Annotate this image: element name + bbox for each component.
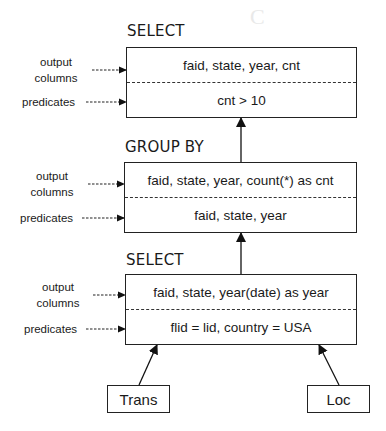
output-columns-value: faid, state, year(date) as year (126, 275, 356, 310)
operator-title: GROUP BY (125, 138, 204, 156)
operator-title: SELECT (127, 22, 185, 40)
predicates-label: predicates (24, 321, 77, 337)
output-columns-value: faid, state, year, cnt (127, 48, 356, 83)
operator-box-select-top: faid, state, year, cnt cnt > 10 (126, 47, 357, 118)
output-columns-label: output columns (24, 279, 92, 311)
output-label-line2: columns (22, 70, 90, 86)
relation-box-loc: Loc (307, 385, 370, 413)
output-columns-value: faid, state, year, count(*) as cnt (125, 163, 356, 198)
predicates-value: flid = lid, country = USA (126, 310, 356, 344)
output-columns-label: output columns (22, 54, 90, 86)
output-label-line1: output (22, 54, 90, 70)
output-label-line2: columns (18, 184, 86, 200)
output-label-line1: output (18, 168, 86, 184)
relation-box-trans: Trans (107, 385, 170, 413)
flow-arrow-trans-to-select (139, 345, 157, 385)
predicates-value: faid, state, year (125, 198, 356, 232)
flow-arrow-loc-to-select (319, 345, 339, 385)
predicates-value: cnt > 10 (127, 83, 356, 117)
output-label-line2: columns (24, 295, 92, 311)
output-label-line1: output (24, 279, 92, 295)
predicates-label: predicates (22, 94, 75, 110)
predicates-label: predicates (20, 210, 73, 226)
operator-box-group-by: faid, state, year, count(*) as cnt faid,… (124, 162, 357, 233)
operator-title: SELECT (126, 251, 184, 269)
output-columns-label: output columns (18, 168, 86, 200)
operator-box-select-bottom: faid, state, year(date) as year flid = l… (125, 274, 357, 345)
